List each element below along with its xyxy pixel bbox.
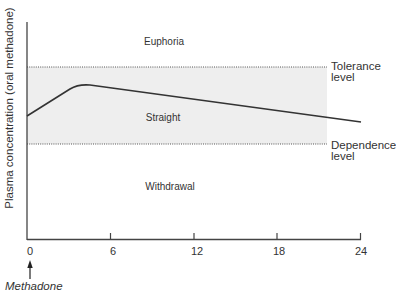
methadone-annotation: Methadone	[5, 280, 63, 292]
straight-label: Straight	[146, 112, 180, 123]
dependence-label-line2: level	[331, 151, 396, 162]
methadone-arrow-icon	[27, 260, 32, 268]
x-tick-label-18: 18	[273, 245, 285, 257]
x-tick-label-6: 6	[110, 245, 116, 257]
x-tick-label-12: 12	[191, 245, 203, 257]
y-axis-label: Plasma concentration (oral methadone)	[3, 7, 15, 208]
dependence-level-label: Dependence level	[331, 140, 396, 162]
euphoria-label: Euphoria	[144, 36, 184, 47]
straight-band	[27, 67, 327, 144]
tolerance-level-label: Tolerance level	[331, 61, 381, 83]
withdrawal-label: Withdrawal	[145, 181, 194, 192]
x-tick-label-0: 0	[27, 245, 33, 257]
x-tick-label-24: 24	[355, 245, 367, 257]
tolerance-label-line2: level	[331, 72, 381, 83]
